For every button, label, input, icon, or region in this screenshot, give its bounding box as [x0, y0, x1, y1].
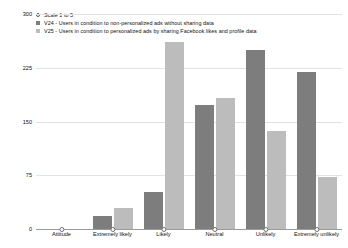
gridline-0: 0: [36, 229, 342, 230]
bar-group: [87, 14, 138, 229]
bar-v24[interactable]: [144, 192, 163, 229]
y-axis-tick-label: 225: [23, 65, 32, 71]
bar-v24[interactable]: [93, 216, 112, 229]
bar-pair: [291, 14, 342, 229]
bar-v24[interactable]: [297, 72, 316, 229]
bar-group: [36, 14, 87, 229]
bar-v25[interactable]: [318, 177, 337, 229]
bar-pair: [87, 14, 138, 229]
bar-group: [189, 14, 240, 229]
y-axis-tick-label: 150: [23, 119, 32, 125]
bar-group: [240, 14, 291, 229]
bar-v25[interactable]: [114, 208, 133, 229]
bar-group: [138, 14, 189, 229]
bar-v25[interactable]: [216, 98, 235, 229]
bar-pair: [189, 14, 240, 229]
bar-pair: [36, 14, 87, 229]
bar-chart: Scale 1 to 5 V24 - Users in condition to…: [0, 0, 348, 248]
bar-groups: [36, 14, 342, 229]
bar-v24[interactable]: [246, 50, 265, 229]
bar-v24[interactable]: [195, 105, 214, 229]
bar-pair: [138, 14, 189, 229]
bar-pair: [240, 14, 291, 229]
y-axis-tick-label: 300: [23, 11, 32, 17]
bar-v25[interactable]: [267, 131, 286, 229]
plot-area: 300 225 150 75 0: [36, 14, 342, 229]
x-axis: AttitudeExtremely likelyLikelyNeutralUnl…: [36, 231, 342, 237]
y-axis-tick-label: 0: [29, 226, 32, 232]
bar-group: [291, 14, 342, 229]
y-axis-tick-label: 75: [26, 172, 32, 178]
bar-v25[interactable]: [165, 42, 184, 229]
